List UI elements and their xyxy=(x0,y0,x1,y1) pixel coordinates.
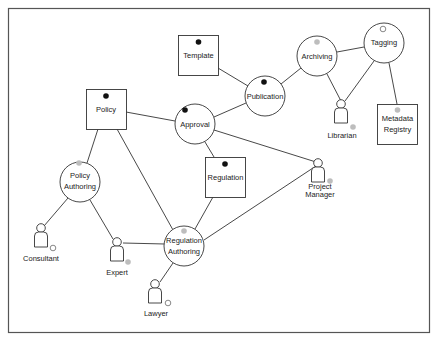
circle-label: Publication xyxy=(247,92,284,101)
box-label: Regulation xyxy=(208,173,244,182)
circle-label: Archiving xyxy=(302,52,333,61)
circle-archiving[interactable]: Archiving xyxy=(297,36,337,76)
circle-label-line2: Authoring xyxy=(168,247,200,256)
box-label: Template xyxy=(183,51,213,60)
circle-regulation-authoring[interactable]: Regulation Authoring xyxy=(164,226,204,266)
actor-label: Expert xyxy=(106,268,129,277)
status-dot-black xyxy=(103,93,109,99)
status-dot-white xyxy=(50,245,56,251)
person-icon xyxy=(111,238,124,261)
status-dot-gray xyxy=(76,160,82,166)
box-metadata-registry[interactable]: Metadata Registry xyxy=(378,105,418,145)
circle-approval[interactable]: Approval xyxy=(175,104,215,144)
circle-tagging[interactable]: Tagging xyxy=(364,23,404,63)
box-label-line1: Metadata xyxy=(382,114,414,123)
status-dot-black xyxy=(196,39,202,45)
status-dot-gray xyxy=(125,259,131,265)
circle-label-line2: Authoring xyxy=(64,182,96,191)
person-icon xyxy=(149,280,162,303)
box-regulation[interactable]: Regulation xyxy=(206,158,246,198)
status-dot-black xyxy=(222,161,228,167)
actor-label: Librarian xyxy=(327,131,356,140)
role-relationship-diagram: Template Policy Regulation Metadata Regi… xyxy=(0,0,435,339)
box-label: Policy xyxy=(96,105,116,114)
status-dot-gray xyxy=(395,107,401,113)
box-policy[interactable]: Policy xyxy=(87,90,127,130)
status-dot-white xyxy=(165,300,171,306)
person-icon xyxy=(312,159,325,182)
status-dot-black xyxy=(261,79,267,85)
box-label-line2: Registry xyxy=(384,125,412,134)
circle-label: Approval xyxy=(180,120,210,129)
person-icon xyxy=(35,224,48,247)
person-icon xyxy=(335,100,348,123)
status-dot-gray xyxy=(350,124,356,130)
actor-label: Consultant xyxy=(23,254,60,263)
circle-label: Tagging xyxy=(371,38,397,47)
box-template[interactable]: Template xyxy=(179,36,219,76)
status-dot-black xyxy=(182,107,188,113)
actor-label-line2: Manager xyxy=(305,190,335,199)
circle-label-line1: Regulation xyxy=(166,236,202,245)
actor-label: Lawyer xyxy=(144,309,169,318)
status-dot-gray xyxy=(314,39,320,45)
circle-label-line1: Policy xyxy=(70,171,90,180)
status-dot-gray xyxy=(181,228,187,234)
status-dot-white xyxy=(380,26,386,32)
circle-publication[interactable]: Publication xyxy=(245,76,285,116)
